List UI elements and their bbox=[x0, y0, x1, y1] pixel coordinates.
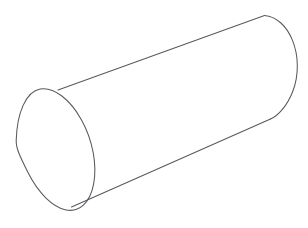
cylinder-body-fill bbox=[18, 16, 297, 208]
cylinder-drawing-svg bbox=[0, 0, 308, 228]
cylinder-figure-canvas bbox=[0, 0, 308, 228]
